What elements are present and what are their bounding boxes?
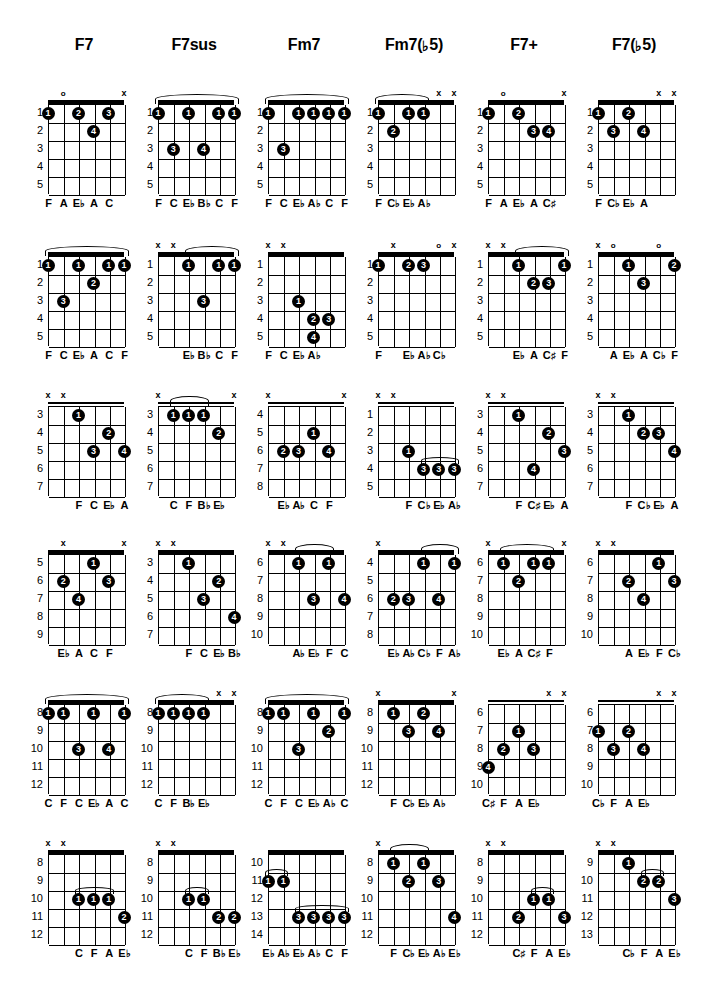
finger-dot[interactable]: 1: [197, 893, 210, 906]
finger-dot[interactable]: 2: [527, 277, 540, 290]
finger-dot[interactable]: 2: [512, 911, 525, 924]
finger-dot[interactable]: 3: [277, 143, 290, 156]
finger-dot[interactable]: 1: [182, 409, 195, 422]
finger-dot[interactable]: 4: [228, 611, 241, 624]
finger-dot[interactable]: 4: [72, 593, 85, 606]
finger-dot[interactable]: 3: [102, 107, 115, 120]
finger-dot[interactable]: 1: [417, 557, 430, 570]
finger-dot[interactable]: 2: [212, 911, 225, 924]
finger-dot[interactable]: 3: [668, 893, 681, 906]
finger-dot[interactable]: 1: [652, 557, 665, 570]
finger-dot[interactable]: 1: [87, 557, 100, 570]
finger-dot[interactable]: 4: [102, 743, 115, 756]
finger-dot[interactable]: 1: [622, 409, 635, 422]
finger-dot[interactable]: 1: [72, 409, 85, 422]
finger-dot[interactable]: 4: [527, 463, 540, 476]
finger-dot[interactable]: 1: [102, 893, 115, 906]
finger-dot[interactable]: 2: [102, 427, 115, 440]
finger-dot[interactable]: 2: [387, 593, 400, 606]
finger-dot[interactable]: 1: [182, 557, 195, 570]
chord-diagram-r5c6[interactable]: xx6789101234C♭FAE♭: [580, 688, 696, 818]
finger-dot[interactable]: 1: [72, 893, 85, 906]
finger-dot[interactable]: 4: [432, 725, 445, 738]
finger-dot[interactable]: 3: [527, 743, 540, 756]
finger-dot[interactable]: 3: [87, 445, 100, 458]
chord-diagram-r6c2[interactable]: xx891011121122CFB♭E♭: [140, 838, 256, 968]
finger-dot[interactable]: 4: [668, 445, 681, 458]
finger-dot[interactable]: 2: [228, 911, 241, 924]
finger-dot[interactable]: 2: [402, 259, 415, 272]
chord-diagram-r6c5[interactable]: xx891011121123C♯FAE♭: [470, 838, 586, 968]
finger-dot[interactable]: 1: [292, 557, 305, 570]
finger-dot[interactable]: 1: [262, 875, 275, 888]
finger-dot[interactable]: 1: [87, 893, 100, 906]
finger-dot[interactable]: 3: [432, 875, 445, 888]
chord-diagram-r4c3[interactable]: xx6789101134A♭E♭FC: [250, 538, 366, 668]
chord-diagram-r4c5[interactable]: xx6789101112E♭AC♯F: [470, 538, 586, 668]
chord-diagram-r5c5[interactable]: xx6789101234C♯FAE♭: [470, 688, 586, 818]
finger-dot[interactable]: 3: [102, 575, 115, 588]
finger-dot[interactable]: 1: [212, 259, 225, 272]
finger-dot[interactable]: 1: [228, 259, 241, 272]
finger-dot[interactable]: 3: [167, 143, 180, 156]
finger-dot[interactable]: 1: [542, 557, 555, 570]
finger-dot[interactable]: 2: [307, 313, 320, 326]
finger-dot[interactable]: 2: [72, 107, 85, 120]
chord-diagram-r6c4[interactable]: x8910111211234FC♭E♭A♭E♭: [360, 838, 476, 968]
finger-dot[interactable]: 3: [607, 125, 620, 138]
finger-dot[interactable]: 3: [448, 463, 461, 476]
finger-dot[interactable]: 3: [402, 725, 415, 738]
finger-dot[interactable]: 2: [622, 725, 635, 738]
finger-dot[interactable]: 1: [542, 893, 555, 906]
finger-dot[interactable]: 2: [118, 911, 131, 924]
chord-diagram-r4c6[interactable]: xx6789101234AE♭FC♭: [580, 538, 696, 668]
chord-diagram-r3c6[interactable]: xx345671234FC♭E♭A: [580, 390, 696, 520]
finger-dot[interactable]: 1: [182, 707, 195, 720]
finger-dot[interactable]: 4: [448, 911, 461, 924]
finger-dot[interactable]: 2: [497, 743, 510, 756]
finger-dot[interactable]: 1: [152, 707, 165, 720]
finger-dot[interactable]: 4: [637, 743, 650, 756]
finger-dot[interactable]: 1: [448, 557, 461, 570]
finger-dot[interactable]: 1: [372, 259, 385, 272]
finger-dot[interactable]: 3: [558, 911, 571, 924]
chord-diagram-r4c4[interactable]: x4567811234E♭A♭C♭FA♭: [360, 538, 476, 668]
finger-dot[interactable]: 1: [307, 107, 320, 120]
finger-dot[interactable]: 1: [512, 259, 525, 272]
finger-dot[interactable]: 3: [307, 911, 320, 924]
finger-dot[interactable]: 1: [42, 107, 55, 120]
finger-dot[interactable]: 1: [167, 707, 180, 720]
finger-dot[interactable]: 2: [637, 875, 650, 888]
finger-dot[interactable]: 1: [622, 259, 635, 272]
finger-dot[interactable]: 2: [637, 427, 650, 440]
finger-dot[interactable]: 3: [542, 277, 555, 290]
finger-dot[interactable]: 2: [212, 575, 225, 588]
finger-dot[interactable]: 3: [558, 445, 571, 458]
finger-dot[interactable]: 3: [307, 593, 320, 606]
chord-diagram-r2c6[interactable]: xoo12345123AE♭AC♭F: [580, 240, 696, 370]
finger-dot[interactable]: 1: [182, 107, 195, 120]
finger-dot[interactable]: 2: [57, 575, 70, 588]
finger-dot[interactable]: 3: [527, 125, 540, 138]
finger-dot[interactable]: 1: [417, 857, 430, 870]
chord-diagram-r1c4[interactable]: xx123451112FC♭E♭A♭: [360, 88, 476, 218]
finger-dot[interactable]: 1: [262, 107, 275, 120]
finger-dot[interactable]: 1: [402, 107, 415, 120]
finger-dot[interactable]: 1: [307, 707, 320, 720]
finger-dot[interactable]: 3: [652, 427, 665, 440]
chord-diagram-r6c3[interactable]: 1011121314113333E♭A♭E♭A♭CF: [250, 838, 366, 968]
finger-dot[interactable]: 3: [338, 911, 351, 924]
finger-dot[interactable]: 3: [57, 295, 70, 308]
finger-dot[interactable]: 1: [118, 707, 131, 720]
finger-dot[interactable]: 2: [402, 875, 415, 888]
finger-dot[interactable]: 1: [512, 409, 525, 422]
chord-diagram-r3c4[interactable]: xx123451333FC♭E♭A♭: [360, 390, 476, 520]
finger-dot[interactable]: 3: [607, 743, 620, 756]
finger-dot[interactable]: 4: [338, 593, 351, 606]
chord-diagram-r5c3[interactable]: 89101112111123CFCE♭A♭C: [250, 688, 366, 818]
chord-diagram-r1c6[interactable]: xx123451234FC♭E♭A: [580, 88, 696, 218]
finger-dot[interactable]: 1: [292, 107, 305, 120]
finger-dot[interactable]: 1: [292, 295, 305, 308]
finger-dot[interactable]: 3: [322, 911, 335, 924]
finger-dot[interactable]: 1: [42, 259, 55, 272]
